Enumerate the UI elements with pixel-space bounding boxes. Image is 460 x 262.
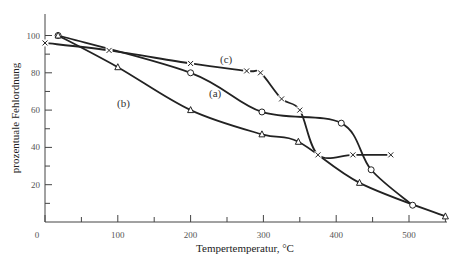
y-tick-label: 40	[31, 142, 41, 152]
x-axis-label: Tempertemperatur, °C	[196, 242, 294, 254]
y-axis-label: prozentuale Fehlordnung	[9, 62, 21, 173]
x-marker	[387, 151, 394, 158]
x-marker	[315, 151, 322, 158]
x-marker	[296, 107, 303, 114]
x-tick-label: 100	[111, 230, 125, 240]
x-marker	[187, 60, 194, 67]
y-tick-label: 20	[31, 180, 41, 190]
x-marker	[42, 39, 49, 46]
x-tick-label: 200	[184, 230, 198, 240]
x-tick-label: 500	[402, 230, 416, 240]
x-marker	[278, 95, 285, 102]
x-marker	[106, 47, 113, 54]
curve-b	[58, 36, 445, 217]
x-marker	[349, 151, 356, 158]
circle-marker	[410, 202, 416, 208]
data-markers	[42, 32, 449, 219]
curve-label-c: (c)	[220, 53, 233, 66]
curve-label-b: (b)	[117, 97, 130, 110]
x-tick-label: 300	[257, 230, 271, 240]
y-tick-label: 80	[31, 68, 41, 78]
y-tick-label: 60	[31, 105, 41, 115]
curves	[45, 36, 445, 217]
curve-label-a: (a)	[209, 87, 222, 100]
circle-marker	[259, 109, 265, 115]
circle-marker	[338, 120, 344, 126]
circle-marker	[188, 70, 194, 76]
x-tick-label: 400	[329, 230, 343, 240]
axes: 0100200300400500 20406080100 Tempertempe…	[9, 14, 447, 254]
y-ticks: 20406080100	[27, 31, 53, 204]
x-tick-label: 0	[35, 230, 40, 240]
y-tick-label: 100	[27, 31, 41, 41]
x-ticks: 0100200300400500	[35, 215, 446, 240]
circle-marker	[368, 167, 374, 173]
x-marker	[243, 67, 250, 74]
x-marker	[257, 69, 264, 76]
curve-c	[45, 43, 391, 158]
chart: 0100200300400500 20406080100 Tempertempe…	[0, 0, 460, 262]
